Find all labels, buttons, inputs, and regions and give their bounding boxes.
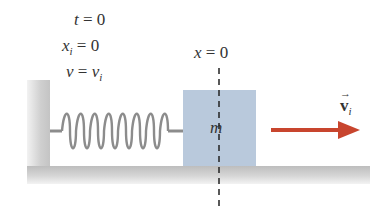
- velocity-arrow-icon: [0, 0, 382, 216]
- velocity-vector-label: →vi: [340, 96, 352, 116]
